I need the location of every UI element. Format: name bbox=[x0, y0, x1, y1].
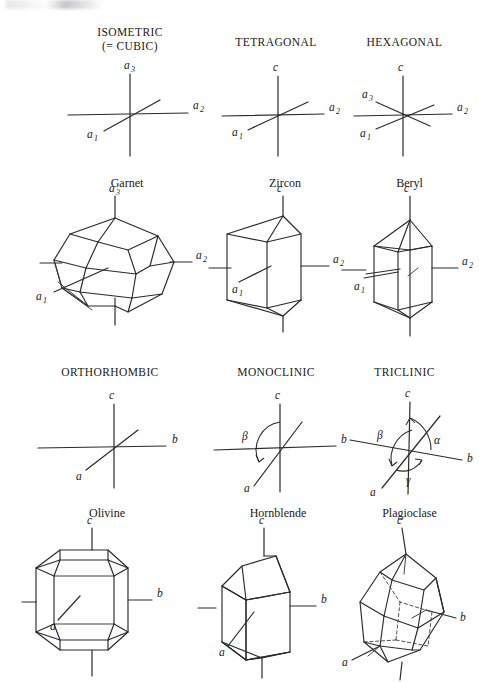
label-a1-base: a bbox=[36, 290, 42, 302]
mineral-olivine: Olivine bbox=[22, 506, 192, 682]
label-a: a bbox=[244, 482, 250, 494]
olivine-title: Olivine bbox=[22, 506, 192, 521]
label-c: c bbox=[405, 387, 410, 399]
scan-artifact bbox=[6, 0, 102, 9]
label-a2-base: a bbox=[196, 249, 202, 261]
label-a2-base: a bbox=[462, 255, 468, 267]
triclinic-axis-cross: α β γ c b a bbox=[330, 388, 479, 500]
label-a3-base: a bbox=[109, 182, 115, 194]
label-a: a bbox=[50, 620, 56, 632]
label-beta: β bbox=[241, 430, 248, 443]
label-a1-base: a bbox=[360, 127, 366, 139]
beryl-crystal-drawing: c a 2 a 1 bbox=[340, 194, 479, 339]
label-c: c bbox=[273, 61, 278, 73]
label-c: c bbox=[259, 514, 264, 526]
plagioclase-title: Plagioclase bbox=[340, 506, 479, 521]
label-a1-sub: 1 bbox=[43, 296, 47, 305]
label-c: c bbox=[404, 182, 409, 194]
label-a1-sub: 1 bbox=[239, 132, 243, 141]
label-a1-base: a bbox=[87, 128, 93, 140]
label-a1-base: a bbox=[232, 283, 238, 295]
label-c: c bbox=[87, 514, 92, 526]
label-a: a bbox=[370, 486, 376, 498]
label-a: a bbox=[342, 656, 348, 668]
hornblende-title: Hornblende bbox=[198, 506, 358, 521]
plagioclase-crystal-drawing: c b a bbox=[340, 524, 479, 682]
label-a2-sub: 2 bbox=[469, 261, 473, 270]
label-c: c bbox=[397, 514, 402, 526]
label-c: c bbox=[275, 389, 280, 401]
label-gamma: γ bbox=[406, 474, 411, 487]
orthorhombic-axis-cross: c b a bbox=[20, 388, 200, 493]
label-a1-base: a bbox=[354, 280, 360, 292]
hornblende-crystal-drawing: c b a bbox=[198, 524, 358, 682]
system-hexagonal-axes: HEXAGONAL c a 2 a 1 a 3 bbox=[330, 36, 479, 166]
label-b: b bbox=[467, 452, 473, 464]
label-a3-sub: 3 bbox=[130, 65, 135, 74]
triclinic-title: TRICLINIC bbox=[330, 366, 479, 378]
label-a1-base: a bbox=[232, 126, 238, 138]
label-c: c bbox=[398, 61, 403, 73]
label-b: b bbox=[172, 433, 178, 445]
label-a2-sub: 2 bbox=[464, 107, 468, 116]
olivine-crystal-drawing: c b a bbox=[22, 524, 192, 682]
label-a1-sub: 1 bbox=[361, 286, 365, 295]
mineral-hornblende: Hornblende c b a bbox=[198, 506, 358, 682]
mineral-garnet: Garnet bbox=[32, 176, 222, 331]
label-a1-sub: 1 bbox=[367, 133, 371, 142]
garnet-title: Garnet bbox=[32, 176, 222, 191]
label-a3-base: a bbox=[124, 59, 130, 71]
label-c: c bbox=[277, 182, 282, 194]
label-c: c bbox=[109, 389, 114, 401]
hexagonal-title: HEXAGONAL bbox=[330, 36, 479, 48]
system-triclinic-axes: TRICLINIC α β γ c b a bbox=[330, 366, 479, 506]
label-a3-sub: 3 bbox=[368, 94, 373, 103]
label-a2-base: a bbox=[333, 253, 339, 265]
mineral-plagioclase: Plagioclase bbox=[340, 506, 479, 682]
label-a2-base: a bbox=[457, 101, 463, 113]
label-a1-sub: 1 bbox=[94, 134, 98, 143]
system-orthorhombic-axes: ORTHORHOMBIC c b a bbox=[20, 366, 200, 496]
hexagonal-axis-cross: c a 2 a 1 a 3 bbox=[330, 56, 479, 161]
mineral-beryl: Beryl bbox=[340, 176, 479, 334]
label-a: a bbox=[219, 646, 225, 658]
label-b: b bbox=[321, 593, 327, 605]
label-b: b bbox=[157, 587, 163, 599]
crystal-systems-figure: ISOMETRIC (= CUBIC) a 3 a 2 a 1 TETRAGON… bbox=[0, 0, 479, 682]
label-b: b bbox=[460, 611, 466, 623]
label-a3-base: a bbox=[362, 88, 368, 100]
label-a1-sub: 1 bbox=[239, 289, 243, 298]
beryl-title: Beryl bbox=[340, 176, 479, 191]
label-a3-sub: 3 bbox=[115, 188, 120, 197]
label-alpha: α bbox=[434, 434, 441, 446]
orthorhombic-title: ORTHORHOMBIC bbox=[20, 366, 200, 378]
garnet-crystal-drawing: a 3 a 2 a 1 bbox=[32, 194, 222, 329]
label-a: a bbox=[76, 470, 82, 482]
label-beta: β bbox=[376, 429, 383, 442]
